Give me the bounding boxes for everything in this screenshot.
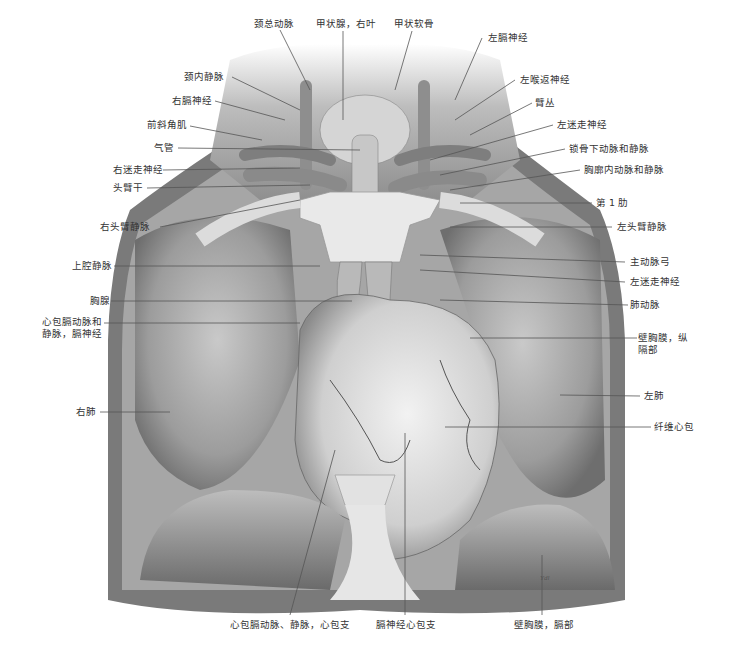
label-diaphragmatic-pleura: 壁胸膜，膈部 <box>514 619 574 631</box>
label-left-vagus-nerve-lower: 左迷走神经 <box>630 276 680 288</box>
label-first-rib: 第 1 肋 <box>596 197 628 209</box>
label-anterior-scalene: 前斜角肌 <box>147 119 187 131</box>
label-common-carotid-artery: 颈总动脉 <box>254 18 294 30</box>
label-thyroid-right-lobe: 甲状腺，右叶 <box>316 18 376 30</box>
label-brachial-plexus: 臂丛 <box>535 97 555 109</box>
label-pericardiacophrenic: 心包膈动脉和 静脉，膈神经 <box>42 316 102 340</box>
label-left-brachiocephalic-vein: 左头臂静脉 <box>617 221 667 233</box>
label-right-phrenic-nerve: 右膈神经 <box>172 95 212 107</box>
label-left-lung: 左肺 <box>644 390 664 402</box>
label-pericardial-branches: 心包膈动脉、静脉，心包支 <box>230 619 350 631</box>
label-trachea: 气管 <box>154 142 174 154</box>
label-internal-thoracic-vessels: 胸廓内动脉和静脉 <box>584 164 664 176</box>
label-subclavian-vessels: 锁骨下动脉和静脉 <box>569 143 649 155</box>
label-brachiocephalic-trunk: 头臂干 <box>113 182 143 194</box>
label-thyroid-cartilage: 甲状软骨 <box>394 18 434 30</box>
label-right-brachiocephalic-vein: 右头臂静脉 <box>100 221 150 233</box>
label-internal-jugular-vein: 颈内静脉 <box>184 71 224 83</box>
label-left-phrenic-nerve: 左膈神经 <box>488 32 528 44</box>
label-right-vagus-nerve: 右迷走神经 <box>113 164 163 176</box>
label-left-recurrent-laryngeal: 左喉返神经 <box>520 74 570 86</box>
label-superior-vena-cava: 上腔静脉 <box>72 260 112 272</box>
label-phrenic-pericardial-branch: 膈神经心包支 <box>376 619 436 631</box>
label-fibrous-pericardium: 纤维心包 <box>654 421 694 433</box>
label-aortic-arch: 主动脉弓 <box>630 256 670 268</box>
label-left-vagus-nerve-upper: 左迷走神经 <box>557 119 607 131</box>
svg-text:Ydl: Ydl <box>540 574 549 582</box>
anatomy-figure: Ydl 颈总动脉 甲状腺， <box>0 0 729 664</box>
label-thymus: 胸腺 <box>90 295 110 307</box>
label-mediastinal-pleura: 壁胸膜，纵 隔部 <box>638 332 688 356</box>
label-right-lung: 右肺 <box>76 406 96 418</box>
illustration: Ydl <box>0 0 729 664</box>
label-pulmonary-artery: 肺动脉 <box>630 299 660 311</box>
